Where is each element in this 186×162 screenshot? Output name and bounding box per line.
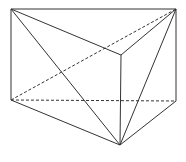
edge-B-C xyxy=(121,9,176,55)
triangular-prism-diagram xyxy=(0,0,186,162)
edge-C-C1 xyxy=(120,55,121,145)
edge-A-C1 xyxy=(11,9,120,145)
edge-B1-C1 xyxy=(120,101,176,145)
edge-A-C xyxy=(11,9,121,55)
edge-A1-B xyxy=(11,9,176,100)
edge-B-C1 xyxy=(120,9,176,145)
edge-A1-B1 xyxy=(11,100,176,101)
edge-A1-C1 xyxy=(11,100,120,145)
